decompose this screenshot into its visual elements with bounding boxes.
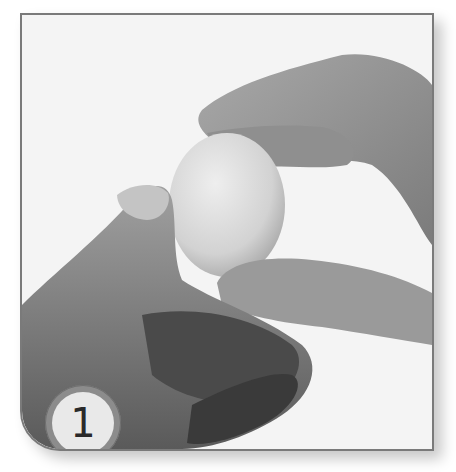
step-number-badge: 1 [45,385,121,451]
step-number-badge-inner: 1 [52,392,114,451]
step-number: 1 [70,403,95,443]
photo-frame: 1 [20,13,434,451]
hands-holding-egg-photo [22,15,432,449]
